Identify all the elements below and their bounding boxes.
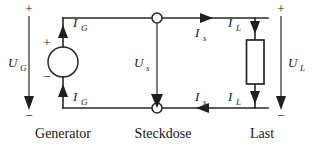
i-s-top-arrowhead xyxy=(200,13,213,23)
u-s-subscript: s xyxy=(146,63,150,73)
circuit-diagram-page: + − + − U G U s + − U L I G I G xyxy=(0,0,314,146)
i-l-bottom-arrowhead xyxy=(250,91,260,104)
load-resistor-icon xyxy=(247,40,265,84)
i-g-top-arrowhead xyxy=(58,25,68,38)
section-label-steckdose: Steckdose xyxy=(135,126,192,141)
u-l-minus-sign: − xyxy=(277,108,284,123)
u-s-label: U xyxy=(134,55,145,70)
i-g-bottom-arrowhead xyxy=(58,84,68,97)
section-label-last: Last xyxy=(250,126,274,141)
i-l-bottom-label: I xyxy=(227,89,233,104)
i-s-bottom-subscript: s xyxy=(203,97,207,107)
steckdose-top-node xyxy=(152,13,162,23)
voltage-source-icon xyxy=(48,47,78,77)
u-g-plus-sign: + xyxy=(25,1,32,16)
u-l-label: U xyxy=(288,55,299,70)
i-l-top-label: I xyxy=(227,15,233,30)
section-label-generator: Generator xyxy=(35,126,91,141)
i-l-top-arrowhead xyxy=(250,21,260,34)
u-g-subscript: G xyxy=(20,63,27,73)
u-g-label: U xyxy=(8,55,19,70)
u-g-minus-sign: − xyxy=(25,108,32,123)
i-s-top-label: I xyxy=(194,25,200,40)
u-l-plus-sign: + xyxy=(277,1,284,16)
i-g-bottom-label: I xyxy=(72,89,78,104)
i-l-bottom-subscript: L xyxy=(235,97,241,107)
circuit-schematic: + − + − U G U s + − U L I G I G xyxy=(0,0,314,146)
u-l-subscript: L xyxy=(299,63,305,73)
source-plus-sign: + xyxy=(43,35,50,50)
i-g-bottom-subscript: G xyxy=(81,97,88,107)
i-l-top-subscript: L xyxy=(235,23,241,33)
i-g-top-subscript: G xyxy=(81,23,88,33)
source-minus-sign: − xyxy=(43,69,50,84)
i-s-top-subscript: s xyxy=(203,33,207,43)
i-g-top-label: I xyxy=(72,15,78,30)
i-s-bottom-label: I xyxy=(194,89,200,104)
